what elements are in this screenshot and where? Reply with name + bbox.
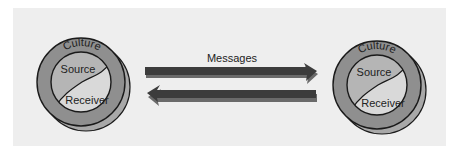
source-label: Source: [357, 66, 392, 78]
receiver-label: Receiver: [361, 97, 405, 109]
right-communicator: Culture Source Receiver: [333, 39, 426, 134]
left-communicator: Culture Source Receiver: [37, 36, 130, 131]
receiver-label: Receiver: [65, 94, 109, 106]
communication-diagram: Culture Source Receiver Culture Source R…: [0, 0, 461, 156]
messages-label: Messages: [207, 52, 258, 64]
arrow-right-icon: [145, 63, 318, 84]
arrow-left-icon: [147, 85, 317, 106]
source-label: Source: [61, 63, 96, 75]
